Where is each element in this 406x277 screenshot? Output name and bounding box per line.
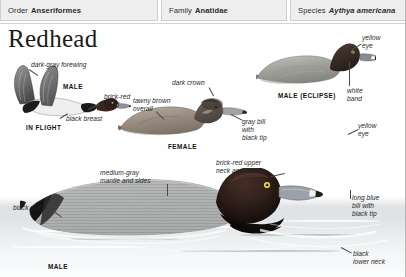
leader-line-male-eye [348,129,358,135]
annotation-mantle-and-sides: medium-gray mantle and sides [100,169,151,185]
taxonomy-value-family: Anatidae [195,6,228,15]
label-in-flight-male: MALE [63,83,83,90]
taxonomy-header: Order Anseriformes Family Anatidae Speci… [0,0,406,21]
annotation-black-rump: black rump [13,204,46,212]
annotation-brick-red-neck-head: brick-red upper neck and head [216,159,261,175]
taxonomy-rank-order: Order [8,6,28,15]
leader-line-mantle [167,184,168,196]
taxonomy-value-species: Aythya americana [329,6,396,15]
leader-line-bill-male [350,190,351,199]
annotation-forewing: dark-gray forewing [31,61,87,69]
label-female: FEMALE [168,143,197,150]
page-title: Redhead [8,26,98,51]
annotation-male-yellow-eye: yellow eye [358,122,377,138]
taxonomy-cell-species: Species Aythya americana [290,0,406,21]
annotation-eclipse-yellow-eye: yellow eye [362,34,381,50]
field-guide-page: Order Anseriformes Family Anatidae Speci… [0,0,406,277]
label-male-eclipse: MALE (ECLIPSE) [278,92,336,99]
annotation-dark-crown: dark crown [172,79,205,87]
label-in-flight: IN FLIGHT [26,124,61,131]
annotation-gray-bill: gray bill with black tip [242,118,267,143]
annotation-black-breast: black breast [66,115,102,123]
taxonomy-rank-species: Species [298,6,326,15]
illustration-male-swimming [20,168,406,263]
taxonomy-cell-order: Order Anseriformes [0,0,158,21]
taxonomy-cell-family: Family Anatidae [161,0,287,21]
annotation-tawny-brown: tawny brown overall [133,97,171,113]
annotation-black-lower-neck: black lower neck [353,250,385,266]
annotation-long-blue-bill: long blue bill with black tip [352,194,379,219]
taxonomy-rank-family: Family [169,6,192,15]
label-male-swimming: MALE [48,263,68,270]
leader-line-white-band [349,62,350,86]
header-divider-rule [0,23,406,24]
taxonomy-value-order: Anseriformes [31,6,81,15]
annotation-white-band: white band [347,87,363,103]
